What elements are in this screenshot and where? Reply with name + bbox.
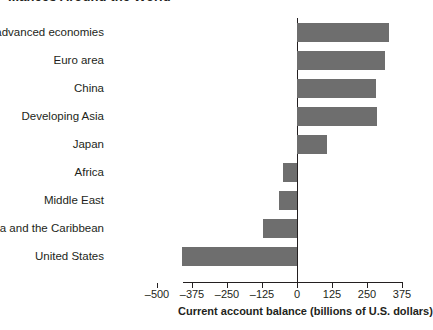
- bar-row: United States: [0, 242, 408, 270]
- tick-label: 375: [393, 288, 411, 300]
- bar-row: Euro area: [0, 46, 408, 74]
- tick-label: –500: [145, 288, 169, 300]
- bar: [283, 163, 297, 182]
- category-label: United States: [35, 242, 111, 270]
- x-axis-title: Current account balance (billions of U.S…: [0, 305, 408, 317]
- category-label: Euro area: [53, 46, 111, 74]
- category-label: Latin America and the Caribbean: [0, 214, 111, 242]
- bar: [279, 191, 297, 210]
- tick-label: 125: [323, 288, 341, 300]
- x-axis: –500–375–250–1250125250375 Current accou…: [0, 282, 408, 330]
- category-label: Africa: [75, 158, 111, 186]
- tick-label: –375: [180, 288, 204, 300]
- x-axis-line: [183, 282, 403, 283]
- category-label: Developing Asia: [22, 102, 111, 130]
- bar: [297, 135, 327, 154]
- bar-row: Middle East: [0, 186, 408, 214]
- category-label: Other advanced economies: [0, 18, 111, 46]
- tick-label: –125: [250, 288, 274, 300]
- bar: [182, 247, 297, 266]
- bar: [297, 23, 389, 42]
- bar-row: Other advanced economies: [0, 18, 408, 46]
- plot-area: Other advanced economiesEuro areaChinaDe…: [0, 18, 408, 282]
- bar-row: China: [0, 74, 408, 102]
- bar-row: Latin America and the Caribbean: [0, 214, 408, 242]
- bar: [297, 51, 385, 70]
- chart-title: ...ances Around the World: [8, 0, 171, 4]
- bar: [297, 79, 376, 98]
- bar-row: Japan: [0, 130, 408, 158]
- category-label: China: [74, 74, 111, 102]
- bar-row: Africa: [0, 158, 408, 186]
- bar: [263, 219, 297, 238]
- category-label: Japan: [73, 130, 111, 158]
- bar-row: Developing Asia: [0, 102, 408, 130]
- tick-label: 0: [294, 288, 300, 300]
- tick-label: 250: [358, 288, 376, 300]
- bar: [297, 107, 377, 126]
- category-label: Middle East: [44, 186, 111, 214]
- tick-label: –250: [215, 288, 239, 300]
